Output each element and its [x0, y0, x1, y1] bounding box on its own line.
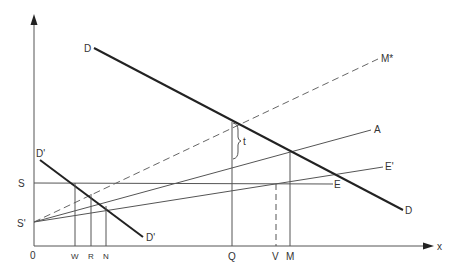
- label-D-start: D: [84, 43, 91, 54]
- label-Q: Q: [228, 251, 236, 262]
- ray-M-star: [34, 59, 378, 222]
- label-M-star: M*: [381, 53, 393, 64]
- label-D-end: D: [405, 205, 412, 216]
- y-axis: [31, 14, 38, 246]
- label-S-prime: S': [17, 218, 26, 229]
- x-axis: [34, 243, 434, 250]
- brace-icon: [233, 123, 241, 159]
- supply-line-S: [34, 183, 333, 184]
- label-D-prime-end: D': [146, 232, 155, 243]
- label-R: R: [88, 252, 94, 261]
- label-A: A: [374, 124, 381, 135]
- y-axis-arrow-icon: [31, 14, 38, 25]
- label-V: V: [272, 251, 279, 262]
- label-x-axis: x: [437, 241, 442, 252]
- economics-diagram: t S S' 0 x W R N Q V M D D D' D' M* A E'…: [0, 0, 459, 277]
- label-M: M: [286, 251, 294, 262]
- label-E: E: [334, 179, 341, 190]
- label-N: N: [103, 252, 109, 261]
- label-origin: 0: [30, 250, 36, 261]
- demand-curve-D: [94, 48, 403, 210]
- label-E-prime: E': [385, 161, 394, 172]
- ray-A: [34, 130, 371, 222]
- x-axis-arrow-icon: [423, 243, 434, 250]
- label-D-prime-start: D': [36, 148, 45, 159]
- label-S: S: [18, 178, 25, 189]
- tax-label: t: [243, 136, 246, 147]
- label-W: W: [71, 252, 79, 261]
